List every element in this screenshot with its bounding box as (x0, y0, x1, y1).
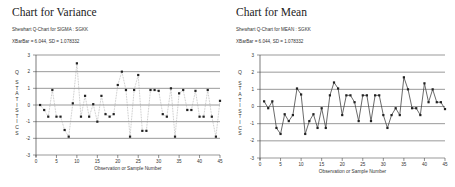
data-point (88, 116, 90, 118)
data-point (113, 113, 115, 115)
data-point (186, 109, 188, 111)
y-tick-label: -2 (250, 138, 255, 143)
data-point (170, 87, 172, 89)
series-line (264, 77, 445, 134)
y-tick-label: 0 (251, 104, 254, 109)
x-tick-label: 10 (74, 159, 80, 164)
y-tick-label: 3 (251, 53, 254, 58)
data-point (390, 114, 392, 116)
y-axis-label-letter: Q (15, 69, 19, 75)
x-tick-label: 0 (259, 162, 262, 167)
data-point (436, 101, 438, 103)
y-tick-label: 1 (27, 86, 30, 91)
data-point (296, 87, 298, 89)
x-axis-label: Observation or Sample Number (319, 169, 387, 174)
data-point (395, 107, 397, 109)
data-point (419, 114, 421, 116)
data-point (39, 104, 41, 106)
data-point (423, 82, 425, 84)
data-point (292, 114, 294, 116)
data-point (129, 136, 131, 138)
data-point (178, 92, 180, 94)
x-tick-label: 35 (177, 159, 183, 164)
x-tick-label: 45 (442, 162, 448, 167)
data-point (59, 116, 61, 118)
data-point (92, 103, 94, 105)
data-point (207, 89, 209, 91)
data-point (203, 116, 205, 118)
data-point (284, 113, 286, 115)
data-point (308, 120, 310, 122)
y-tick-label: 3 (27, 53, 30, 58)
data-point (267, 107, 269, 109)
x-axis-label: Observation or Sample Number (94, 166, 162, 171)
data-point (353, 101, 355, 103)
data-point (300, 93, 302, 95)
data-point (64, 129, 66, 131)
x-tick-label: 15 (319, 162, 325, 167)
data-point (198, 116, 200, 118)
y-tick-label: -3 (26, 153, 31, 158)
data-point (382, 114, 384, 116)
data-point (215, 136, 217, 138)
x-tick-label: 15 (95, 159, 101, 164)
data-point (440, 101, 442, 103)
data-point (263, 100, 265, 102)
y-tick-label: 2 (251, 70, 254, 75)
data-point (288, 120, 290, 122)
y-axis-label-letter: S (15, 130, 19, 136)
y-tick-label: -1 (250, 121, 255, 126)
x-tick-label: 25 (360, 162, 366, 167)
data-point (333, 81, 335, 83)
data-point (72, 102, 74, 104)
data-point (104, 113, 106, 115)
data-point (374, 94, 376, 96)
data-point (47, 116, 49, 118)
series-line (40, 63, 220, 136)
y-tick-label: -1 (26, 119, 31, 124)
data-point (432, 88, 434, 90)
data-point (399, 114, 401, 116)
variance-chart-panel: Chart for Variance Shewhart Q-Chart for … (0, 0, 227, 187)
x-tick-label: 40 (422, 162, 428, 167)
data-point (174, 136, 176, 138)
data-point (117, 84, 119, 86)
data-point (84, 95, 86, 97)
x-tick-label: 35 (401, 162, 407, 167)
data-point (43, 109, 45, 111)
data-point (51, 89, 53, 91)
data-point (370, 120, 372, 122)
y-tick-label: 1 (251, 87, 254, 92)
y-tick-label: 2 (27, 69, 30, 74)
y-tick-label: -2 (26, 136, 31, 141)
x-tick-label: 10 (299, 162, 305, 167)
x-tick-label: 20 (115, 159, 121, 164)
data-point (211, 116, 213, 118)
data-point (153, 89, 155, 91)
data-point (362, 94, 364, 96)
data-point (76, 62, 78, 64)
data-point (145, 130, 147, 132)
data-point (182, 89, 184, 91)
data-point (415, 107, 417, 109)
data-point (411, 107, 413, 109)
data-point (345, 94, 347, 96)
data-point (329, 94, 331, 96)
data-point (100, 95, 102, 97)
data-point (312, 113, 314, 115)
mean-chart-panel: Chart for Mean Shewhart Q-Chart for MEAN… (228, 0, 455, 187)
data-point (158, 90, 160, 92)
x-tick-label: 30 (381, 162, 387, 167)
data-point (275, 127, 277, 129)
y-tick-label: 0 (27, 103, 30, 108)
x-tick-label: 5 (279, 162, 282, 167)
x-tick-label: 25 (136, 159, 142, 164)
data-point (304, 133, 306, 135)
data-point (149, 89, 151, 91)
x-tick-label: 20 (340, 162, 346, 167)
data-point (219, 100, 221, 102)
data-point (316, 127, 318, 129)
data-point (68, 136, 70, 138)
data-point (194, 90, 196, 92)
data-point (386, 127, 388, 129)
